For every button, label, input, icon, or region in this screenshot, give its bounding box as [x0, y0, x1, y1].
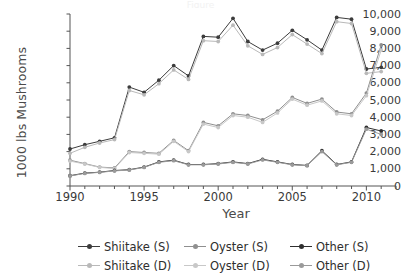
legend-label: Oyster (S) — [210, 240, 268, 254]
legend-marker-icon — [290, 261, 312, 270]
chart-figure: Figure 1000 lbs Mushrooms Year 01,0002,0… — [0, 0, 401, 279]
legend-item[interactable]: Oyster (S) — [184, 237, 290, 256]
legend-item[interactable]: Shiitake (D) — [78, 256, 184, 275]
legend-marker-icon — [290, 242, 312, 251]
legend-label: Oyster (D) — [210, 259, 270, 273]
legend-label: Other (S) — [316, 240, 369, 254]
legend-marker-icon — [78, 261, 100, 270]
series-4 — [68, 48, 383, 170]
legend-marker-icon — [184, 242, 206, 251]
legend-marker-icon — [78, 242, 100, 251]
legend-item[interactable]: Shiitake (S) — [78, 237, 184, 256]
legend-label: Other (D) — [316, 259, 370, 273]
chart-legend: Shiitake (S)Oyster (S)Other (S)Shiitake … — [78, 237, 396, 275]
legend-item[interactable]: Other (D) — [290, 256, 396, 275]
series-3 — [68, 43, 383, 170]
series-1 — [68, 16, 383, 151]
legend-marker-icon — [184, 261, 206, 270]
legend-item[interactable]: Other (S) — [290, 237, 396, 256]
legend-label: Shiitake (S) — [104, 240, 170, 254]
legend-item[interactable]: Oyster (D) — [184, 256, 290, 275]
legend-label: Shiitake (D) — [104, 259, 171, 273]
